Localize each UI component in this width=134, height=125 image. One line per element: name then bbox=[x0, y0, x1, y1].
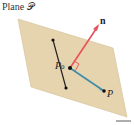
line-endpoint-bottom bbox=[64, 86, 67, 89]
point-p bbox=[102, 89, 106, 93]
label-p: P bbox=[107, 88, 113, 99]
normal-arrowhead bbox=[93, 24, 99, 31]
plane-p bbox=[18, 19, 127, 117]
label-p0: P0 bbox=[55, 60, 65, 71]
point-p0 bbox=[68, 66, 72, 70]
line-endpoint-top bbox=[51, 38, 54, 41]
plane-diagram bbox=[0, 0, 134, 125]
label-n: n bbox=[100, 15, 106, 26]
